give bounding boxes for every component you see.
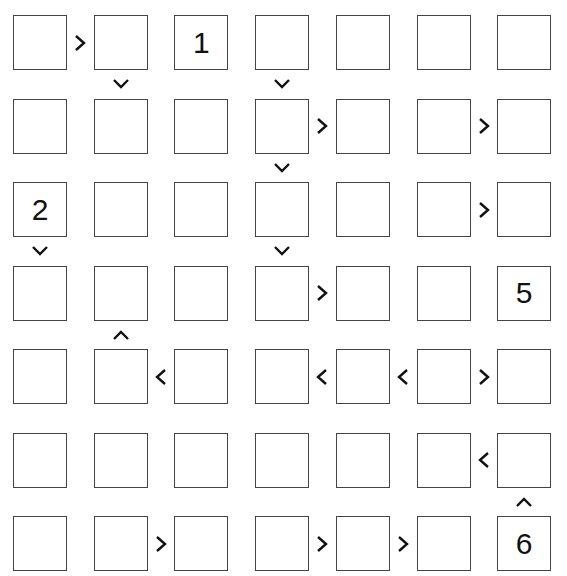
chevron-down-icon [31,242,49,260]
chevron-down-icon [273,75,291,93]
greater-than-icon [313,535,331,553]
empty-cell[interactable] [336,15,390,70]
empty-cell[interactable] [94,433,148,488]
empty-cell[interactable] [497,349,551,404]
empty-cell[interactable] [336,266,390,321]
empty-cell[interactable] [13,516,67,571]
empty-cell[interactable] [174,99,228,154]
empty-cell[interactable] [174,433,228,488]
empty-cell[interactable] [417,516,471,571]
greater-than-icon [313,284,331,302]
empty-cell[interactable] [94,349,148,404]
empty-cell[interactable] [13,266,67,321]
given-cell: 1 [174,15,228,70]
greater-than-icon [71,34,89,52]
empty-cell[interactable] [94,15,148,70]
empty-cell[interactable] [94,182,148,237]
empty-cell[interactable] [497,182,551,237]
given-cell: 2 [13,182,67,237]
chevron-down-icon [273,159,291,177]
greater-than-icon [475,117,493,135]
empty-cell[interactable] [174,349,228,404]
chevron-down-icon [273,242,291,260]
empty-cell[interactable] [497,15,551,70]
empty-cell[interactable] [94,266,148,321]
empty-cell[interactable] [336,182,390,237]
empty-cell[interactable] [417,182,471,237]
empty-cell[interactable] [336,349,390,404]
empty-cell[interactable] [255,15,309,70]
empty-cell[interactable] [94,99,148,154]
empty-cell[interactable] [94,516,148,571]
empty-cell[interactable] [336,433,390,488]
greater-than-icon [475,368,493,386]
empty-cell[interactable] [336,516,390,571]
empty-cell[interactable] [13,349,67,404]
chevron-up-icon [515,493,533,511]
empty-cell[interactable] [174,266,228,321]
empty-cell[interactable] [497,99,551,154]
futoshiki-board: 1256 [0,0,567,576]
empty-cell[interactable] [255,266,309,321]
empty-cell[interactable] [497,433,551,488]
greater-than-icon [152,535,170,553]
given-cell: 6 [497,516,551,571]
empty-cell[interactable] [255,433,309,488]
empty-cell[interactable] [417,433,471,488]
less-than-icon [313,368,331,386]
chevron-down-icon [112,75,130,93]
empty-cell[interactable] [13,15,67,70]
empty-cell[interactable] [417,266,471,321]
chevron-up-icon [112,326,130,344]
empty-cell[interactable] [255,182,309,237]
empty-cell[interactable] [255,349,309,404]
empty-cell[interactable] [13,433,67,488]
given-cell: 5 [497,266,551,321]
less-than-icon [152,368,170,386]
empty-cell[interactable] [417,15,471,70]
empty-cell[interactable] [417,99,471,154]
empty-cell[interactable] [255,516,309,571]
empty-cell[interactable] [255,99,309,154]
empty-cell[interactable] [336,99,390,154]
less-than-icon [475,451,493,469]
empty-cell[interactable] [417,349,471,404]
empty-cell[interactable] [13,99,67,154]
less-than-icon [394,368,412,386]
greater-than-icon [475,201,493,219]
greater-than-icon [313,117,331,135]
empty-cell[interactable] [174,516,228,571]
empty-cell[interactable] [174,182,228,237]
greater-than-icon [394,535,412,553]
